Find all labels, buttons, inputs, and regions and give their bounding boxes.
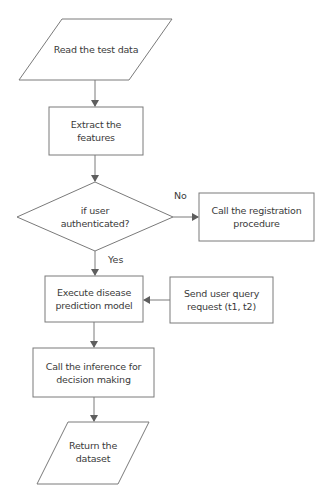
edge-label-yes: Yes (108, 254, 123, 265)
label-call-inference: Call the inference for decision making (33, 348, 154, 397)
label-user-authenticated: if user authenticated? (40, 203, 150, 231)
label-line: prediction model (55, 299, 132, 312)
label-line: Call the registration (212, 204, 302, 217)
label-line: procedure (233, 217, 279, 230)
label-return-dataset: Return the dataset (50, 436, 136, 468)
label-line: request (t1, t2) (187, 300, 256, 313)
label-line: Call the inference for (46, 360, 142, 373)
label-text: Extract the features (58, 118, 134, 144)
label-line: authenticated? (61, 217, 130, 230)
label-call-registration: Call the registration procedure (199, 193, 314, 241)
flowchart-canvas (0, 0, 330, 501)
label-read-test-data: Read the test data (40, 38, 152, 60)
label-line: Execute disease (57, 286, 131, 299)
label-line: Return the (69, 439, 117, 452)
label-line: dataset (76, 452, 111, 465)
label-line: Send user query (184, 287, 259, 300)
edge-label-no: No (174, 190, 187, 201)
label-send-user-query: Send user query request (t1, t2) (170, 277, 273, 323)
label-execute-prediction: Execute disease prediction model (45, 276, 143, 322)
label-text: Read the test data (54, 43, 139, 56)
label-line: decision making (56, 373, 130, 386)
label-extract-features: Extract the features (58, 112, 134, 150)
label-line: if user (81, 204, 109, 217)
